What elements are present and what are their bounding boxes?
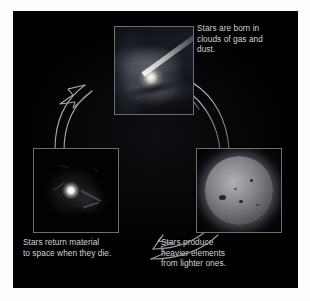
diagram-page: Stars are born in clouds of gas and dust… (0, 0, 310, 301)
ejecta-wisp (59, 165, 69, 168)
ejecta-wisp (83, 201, 99, 208)
dust-lane (115, 72, 193, 106)
arrow-return-to-birth (55, 85, 92, 151)
stage-image-produce[interactable] (196, 148, 282, 233)
star-disc (205, 156, 274, 224)
ejecta-wisp (92, 166, 100, 173)
stage-image-birth[interactable] (114, 26, 194, 115)
stage-caption-return: Stars return material to space when they… (23, 237, 143, 258)
sunspot (250, 179, 253, 182)
sunspot (234, 188, 237, 190)
sunspot (256, 204, 259, 206)
diagram-canvas: Stars are born in clouds of gas and dust… (13, 11, 298, 288)
protostar-nebula-with-jet-photo (115, 27, 193, 114)
dying-star-ejecting-material-photo (34, 149, 118, 232)
ejecta-wisp (53, 182, 65, 191)
stage-image-return[interactable] (33, 148, 119, 233)
stage-caption-produce: Stars produce heavier elements from ligh… (161, 237, 271, 269)
stage-caption-birth: Stars are born in clouds of gas and dust… (197, 23, 295, 55)
stellar-jet (142, 27, 193, 77)
star-sphere-with-sunspots-photo (197, 149, 281, 232)
